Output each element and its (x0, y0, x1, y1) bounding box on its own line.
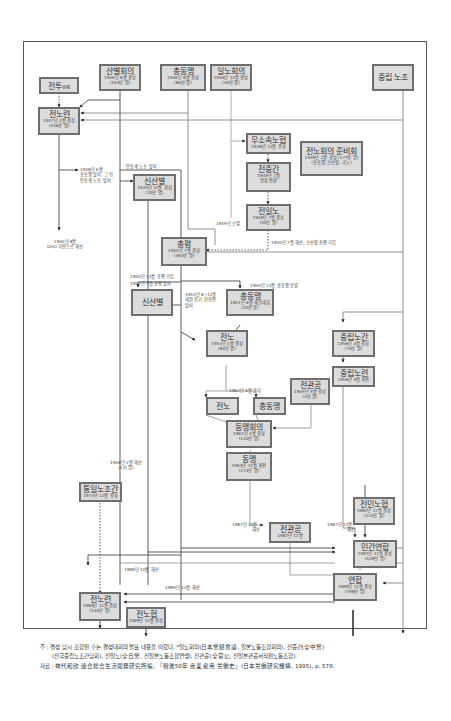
node-jeonilno: 전일노 1949년 7월 결성 (50만 명) (246, 204, 291, 231)
label-mindong: 민동계 노조 탈퇴 (126, 164, 157, 169)
node-jeontu: 전투全鬪 (39, 77, 79, 94)
footnote-line2: (전국중립노조간담회), 전일노(全日勞, 전일본노동조합연맹), 전관공(全官… (52, 652, 297, 660)
label-1987-11-a: 1987년 11월 해산 (232, 522, 260, 533)
node-sinsanbyeol-2: 신산별 (131, 289, 173, 316)
label-1950-11-join: 1950년 11월 총평 가입 (130, 274, 174, 279)
label-1988-10: 1988년 10월 해산 (124, 567, 159, 572)
label-1962-4: 1962년 4월 분리 (229, 388, 261, 393)
label-1950-11-split: 1950년 11월 총동맹 분열 (250, 283, 298, 288)
node-jeonno-2: 전노 (206, 397, 239, 415)
source-line: 자료 : 神代和欣·連合総合生活開発研究所編, 『戦後50年 産業·雇用·労働史… (40, 662, 335, 670)
node-chongdongmaeng-1951: 총동맹 1951년 6월 재건대회 (33만 명) (226, 289, 274, 316)
label-1950-8: 1950년 8월 GHQ 지령으로 해산 (47, 239, 83, 250)
node-jeonnoryeon-1947: 전노련 1947년 3월 결성 (446만 명) (38, 107, 80, 135)
label-1948-6: 1948년 6월 총동맹 탈퇴, 그 뒤 민동계 노조 탈퇴 (80, 167, 113, 183)
node-chongdongmaeng-2: 총동맹 (253, 397, 286, 415)
label-1989-11: 1989년 11월 해산 (165, 585, 200, 590)
label-1987-11-b: 1987년 11월 해산 (327, 522, 355, 533)
node-musosok-nohyeop: 무소속노협 1948년 12월 결성 (246, 133, 291, 154)
node-dongmaeng-hoeui: 동맹회의 1962년 4월 결성 (140만 명) (226, 420, 272, 448)
label-1953: 1953년 8~11월 해원·전기·전영련 탈퇴 (185, 292, 217, 308)
node-jeonnohoeui-junbi: 전노회의 준비회 1949년 2월 결성 (177만 명) (총동맹, 신산별,… (300, 141, 363, 176)
node-dongmaeng: 동맹 1964년 11월 개편 (174만 명) (226, 452, 272, 481)
node-yeonhap: 연합 1989년 11월 결성 (798만 명) (333, 573, 377, 601)
footnote-line1: 주 : 결성 당시 조합원 수는 결성대회의 발표 내용을 따랐다. *일노회의… (40, 643, 324, 651)
node-sinsanbyeol-1949: 신산별 1949년 12월 결성 (33만 명) (133, 174, 176, 201)
node-jeonjunggan: 전중간 1949년 2월 명칭 변경 (246, 162, 291, 192)
label-1952-7: 1952년 7월 총평 탈퇴 (130, 281, 171, 286)
node-jeonno-1954: 전노 1954년 4월 결성 (84만 명) (206, 330, 248, 357)
label-1950-7: 1950년 7월 해산, 신산별 총평 가입 (271, 240, 336, 245)
node-jeonnohyeop: 전노협 1989년 12월 결성 (126, 607, 166, 628)
node-jeonmin-nohyeop: 전민노협 1982년 12월 결성 (425만 명) (353, 497, 395, 525)
label-1949-disappear: 1949년 소멸 (216, 221, 240, 226)
node-chongdongmaeng-1946: 총동맹 1946년 8월 결성 (86만 명) (160, 64, 206, 91)
node-tongil-nojogan: 통일노조간 1974년 12월 결성 (79, 482, 122, 502)
node-jeongwangong-1959: 전관공 1959년 9월 결성 (4만 명) (290, 378, 330, 405)
node-mingan-yeonhap: 민간연합 1987년 11월 결성 (539만 명) (353, 540, 397, 568)
node-jungrip-nogan: 중립노간 1956년 4월 결성 (75만 명) (332, 330, 375, 357)
node-jeongwangong-1987: 전관공 1987년 11월 (269, 522, 311, 543)
node-jeonnoryeon-1989: 전노련 1989년 11월 결성 (140만 명) (79, 592, 121, 621)
node-ilnohoeui: 일노회의 1946년 10월 결성 (30만 명) (210, 64, 252, 91)
node-sanbyeol: 산별회의 1946년 8월 결성 (163만 명) (99, 64, 141, 91)
node-jungrip-noryeon: 중립노련 1956년 9월 개편 (332, 366, 375, 387)
node-jungrip-nojo: 중립 노조 (372, 64, 414, 91)
label-1958-2: 1958년 2월 해산 (1만 명) (110, 460, 142, 471)
node-chonghyeong: 총평 1950년 7월 결성 (365만 명) (161, 237, 207, 266)
